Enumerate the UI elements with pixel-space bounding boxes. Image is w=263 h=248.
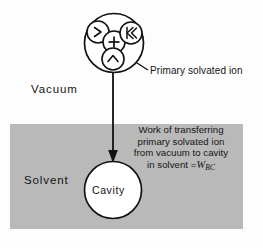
water-molecule-bottom-circle bbox=[102, 48, 124, 70]
primary-solvated-ion-callout-label: Primary solvated ion bbox=[150, 65, 243, 76]
solvated-ion-transfer-diagram: Vacuum Solvent Cavity Primary solvated i… bbox=[0, 0, 263, 248]
cavity-label: Cavity bbox=[92, 184, 125, 196]
work-note-line-1: Work of transferring bbox=[119, 124, 243, 136]
work-of-transfer-note: Work of transferring primary solvated io… bbox=[119, 124, 243, 173]
work-symbol-subscript: BC bbox=[205, 163, 215, 172]
work-symbol: W bbox=[196, 159, 205, 170]
work-note-line-2: primary solvated ion bbox=[119, 136, 243, 148]
vacuum-region-label: Vacuum bbox=[31, 83, 78, 95]
work-note-equation-prefix: in solvent = bbox=[147, 159, 196, 170]
work-note-line-3: from vacuum to cavity bbox=[119, 147, 243, 159]
solvent-region-label: Solvent bbox=[24, 174, 69, 186]
primary-solvated-ion-cluster bbox=[85, 14, 144, 73]
work-note-line-4: in solvent =WBC bbox=[119, 159, 243, 174]
